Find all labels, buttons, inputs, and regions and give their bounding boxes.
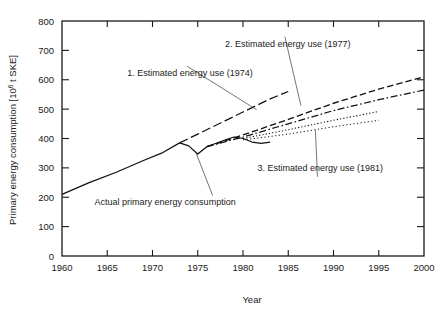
x-tick-label: 2000 bbox=[413, 262, 434, 273]
anno-1974-label: 1. Estimated energy use (1974) bbox=[127, 68, 253, 78]
anno-actual-label: Actual primary energy consumption bbox=[95, 197, 236, 207]
x-tick-label: 1975 bbox=[187, 262, 208, 273]
x-axis-label: Year bbox=[242, 294, 261, 305]
y-tick-label: 0 bbox=[49, 251, 54, 262]
series-line-4 bbox=[243, 111, 379, 138]
x-tick-label: 1970 bbox=[142, 262, 163, 273]
anno-1981-label: 3. Estimated energy use (1981) bbox=[257, 163, 383, 173]
annotation-labels: 1. Estimated energy use (1974)2. Estimat… bbox=[95, 39, 383, 208]
y-tick-label: 600 bbox=[38, 74, 54, 85]
x-tick-label: 1985 bbox=[278, 262, 299, 273]
x-tick-label: 1980 bbox=[232, 262, 253, 273]
series-line-1 bbox=[180, 92, 289, 143]
anno-actual-leader bbox=[196, 153, 213, 196]
y-axis-label: Primary energy consumption [106 t SKE] bbox=[7, 55, 19, 225]
anno-1977-label: 2. Estimated energy use (1977) bbox=[225, 39, 351, 49]
y-tick-label: 500 bbox=[38, 104, 54, 115]
chart-canvas: 196019651970197519801985199019952000 010… bbox=[0, 0, 448, 317]
y-tick-label: 800 bbox=[38, 16, 54, 27]
energy-consumption-chart: 196019651970197519801985199019952000 010… bbox=[0, 0, 448, 317]
x-tick-label: 1990 bbox=[323, 262, 344, 273]
series-line-0 bbox=[62, 137, 270, 194]
y-tick-label: 100 bbox=[38, 221, 54, 232]
x-tick-label: 1960 bbox=[51, 262, 72, 273]
series-line-5 bbox=[243, 120, 379, 140]
x-axis-tick-labels: 196019651970197519801985199019952000 bbox=[51, 262, 434, 273]
svg-text:Primary energy consumption [10: Primary energy consumption [106 t SKE] bbox=[7, 55, 19, 225]
data-series-group bbox=[62, 77, 424, 195]
y-tick-label: 400 bbox=[38, 133, 54, 144]
y-axis-tick-labels: 0100200300400500600700800 bbox=[38, 16, 54, 262]
y-tick-label: 200 bbox=[38, 192, 54, 203]
y-tick-label: 700 bbox=[38, 45, 54, 56]
y-tick-label: 300 bbox=[38, 162, 54, 173]
x-tick-label: 1995 bbox=[368, 262, 389, 273]
x-tick-label: 1965 bbox=[97, 262, 118, 273]
